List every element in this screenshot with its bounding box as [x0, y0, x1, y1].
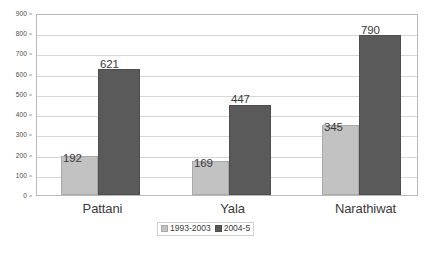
bar-pattani-2004-5[interactable] — [98, 69, 140, 195]
category-label-narathiwat: Narathiwat — [318, 202, 413, 215]
bar-yala-2004-5[interactable] — [229, 105, 271, 195]
y-tick-label-300: 300 — [16, 132, 27, 139]
bar-label-narathiwat-1993-2003: 345 — [324, 122, 343, 134]
y-tick-label-700: 700 — [16, 51, 27, 58]
y-axis: 900 800 700 600 500 400 300 200 100 0 — [0, 14, 32, 196]
y-tick-mark-300 — [29, 135, 32, 136]
category-label-pattani: Pattani — [60, 202, 145, 215]
y-tick-mark-0 — [29, 196, 32, 197]
y-tick-label-200: 200 — [16, 152, 27, 159]
y-tick-mark-200 — [29, 155, 32, 156]
y-tick-label-800: 800 — [16, 31, 27, 38]
y-tick-mark-800 — [29, 34, 32, 35]
legend-swatch-icon-2004-5 — [215, 225, 222, 232]
legend-entry-2004-5[interactable]: 2004-5 — [215, 224, 250, 233]
legend-label-1993-2003: 1993-2003 — [170, 224, 211, 233]
y-tick-label-0: 0 — [23, 193, 27, 200]
legend-label-2004-5: 2004-5 — [224, 224, 250, 233]
y-tick-label-400: 400 — [16, 112, 27, 119]
category-label-yala: Yala — [190, 202, 275, 215]
bar-narathiwat-2004-5[interactable] — [359, 35, 401, 195]
chart-legend: 1993-2003 2004-5 — [157, 222, 254, 236]
plot-area: 192 621 169 447 345 790 — [36, 14, 418, 196]
y-tick-label-600: 600 — [16, 71, 27, 78]
bar-label-yala-2004-5: 447 — [231, 94, 250, 106]
legend-entry-1993-2003[interactable]: 1993-2003 — [161, 224, 211, 233]
y-tick-mark-100 — [29, 175, 32, 176]
y-tick-mark-700 — [29, 54, 32, 55]
y-tick-label-900: 900 — [16, 11, 27, 18]
y-tick-mark-900 — [29, 14, 32, 15]
y-tick-mark-500 — [29, 94, 32, 95]
bar-narathiwat-1993-2003[interactable] — [322, 125, 359, 195]
bar-label-narathiwat-2004-5: 790 — [361, 25, 380, 37]
bar-label-pattani-1993-2003: 192 — [63, 153, 82, 165]
bar-chart: 900 800 700 600 500 400 300 200 100 0 — [0, 0, 442, 253]
bar-label-yala-1993-2003: 169 — [194, 158, 213, 170]
bar-label-pattani-2004-5: 621 — [100, 59, 119, 71]
legend-swatch-icon-1993-2003 — [161, 225, 168, 232]
y-tick-label-100: 100 — [16, 173, 27, 180]
y-tick-label-500: 500 — [16, 92, 27, 99]
y-tick-mark-400 — [29, 115, 32, 116]
y-tick-mark-600 — [29, 74, 32, 75]
